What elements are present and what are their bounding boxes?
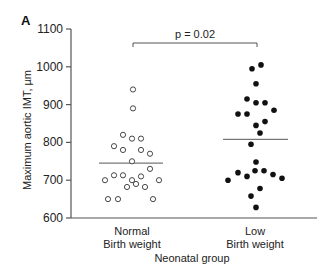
y-axis-label: Maximum aortic IMT, µm bbox=[21, 70, 33, 190]
data-point-open-circle bbox=[138, 174, 143, 179]
data-point-open-circle bbox=[120, 173, 125, 178]
data-point-filled-circle bbox=[257, 130, 263, 136]
data-point-open-circle bbox=[129, 136, 134, 141]
mean-lines bbox=[99, 139, 288, 163]
data-point-filled-circle bbox=[253, 123, 259, 129]
data-point-open-circle bbox=[120, 147, 125, 152]
category-label: Birth weight bbox=[103, 238, 160, 250]
data-point-open-circle bbox=[111, 173, 116, 178]
data-point-filled-circle bbox=[262, 119, 268, 125]
category-labels: NormalBirth weightLowBirth weight bbox=[103, 225, 283, 250]
data-point-filled-circle bbox=[244, 111, 250, 117]
data-point-open-circle bbox=[130, 106, 135, 111]
data-point-filled-circle bbox=[261, 168, 267, 174]
x-axis-label: Neonatal group bbox=[154, 252, 229, 264]
data-point-filled-circle bbox=[270, 172, 276, 178]
y-tick-label: 800 bbox=[43, 135, 63, 149]
y-axis: 60070080090010001100 bbox=[36, 22, 71, 225]
category-label: Normal bbox=[114, 225, 149, 237]
data-point-filled-circle bbox=[253, 159, 259, 165]
data-point-open-circle bbox=[115, 197, 120, 202]
data-points bbox=[102, 62, 284, 210]
data-point-filled-circle bbox=[258, 62, 264, 68]
y-tick-label: 600 bbox=[43, 211, 63, 225]
significance-bracket bbox=[133, 43, 257, 47]
data-point-open-circle bbox=[138, 136, 143, 141]
y-tick-label: 1100 bbox=[37, 22, 63, 36]
data-point-filled-circle bbox=[279, 176, 285, 182]
data-point-open-circle bbox=[129, 159, 134, 164]
y-tick-label: 1000 bbox=[36, 60, 63, 74]
category-label: Birth weight bbox=[226, 238, 283, 250]
data-point-filled-circle bbox=[253, 100, 259, 106]
data-point-filled-circle bbox=[253, 205, 259, 211]
data-point-open-circle bbox=[150, 197, 155, 202]
data-point-filled-circle bbox=[271, 107, 277, 113]
data-point-open-circle bbox=[147, 166, 152, 171]
data-point-filled-circle bbox=[252, 168, 258, 174]
data-point-filled-circle bbox=[262, 100, 268, 106]
data-point-open-circle bbox=[142, 184, 147, 189]
data-point-filled-circle bbox=[253, 81, 259, 87]
data-point-open-circle bbox=[156, 178, 161, 183]
scatter-chart: A 60070080090010001100 Maximum aortic IM… bbox=[0, 0, 334, 280]
data-point-filled-circle bbox=[225, 177, 231, 183]
data-point-filled-circle bbox=[244, 96, 250, 102]
data-point-open-circle bbox=[133, 181, 138, 186]
data-point-open-circle bbox=[124, 184, 129, 189]
category-label: Low bbox=[245, 225, 265, 237]
data-point-open-circle bbox=[111, 144, 116, 149]
y-tick-label: 900 bbox=[43, 98, 63, 112]
data-point-filled-circle bbox=[257, 186, 263, 192]
data-point-filled-circle bbox=[248, 141, 254, 147]
p-value-annotation: p = 0.02 bbox=[175, 28, 215, 40]
panel-label: A bbox=[21, 13, 31, 28]
data-point-open-circle bbox=[105, 197, 110, 202]
data-point-filled-circle bbox=[248, 193, 254, 199]
data-point-filled-circle bbox=[235, 170, 241, 176]
data-point-filled-circle bbox=[244, 174, 250, 180]
y-tick-label: 700 bbox=[43, 173, 63, 187]
data-point-open-circle bbox=[120, 132, 125, 137]
data-point-open-circle bbox=[147, 151, 152, 156]
data-point-open-circle bbox=[138, 147, 143, 152]
data-point-open-circle bbox=[130, 87, 135, 92]
data-point-open-circle bbox=[102, 178, 107, 183]
data-point-filled-circle bbox=[235, 111, 241, 117]
data-point-filled-circle bbox=[249, 66, 255, 72]
